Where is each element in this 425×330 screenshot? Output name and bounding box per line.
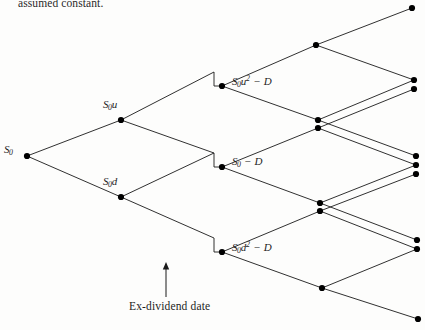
tree-node bbox=[319, 285, 325, 291]
tree-node-label: S0 − D bbox=[232, 155, 262, 169]
tree-edge bbox=[316, 8, 412, 45]
tree-node bbox=[415, 316, 421, 322]
tree-node-label: S0d bbox=[103, 175, 117, 189]
tree-node-label: S0 bbox=[4, 143, 13, 157]
tree-edge bbox=[27, 120, 121, 156]
tree-edge bbox=[320, 203, 417, 240]
tree-node bbox=[413, 153, 419, 159]
tree-node bbox=[219, 164, 225, 170]
arrow-head bbox=[163, 262, 169, 270]
tree-node bbox=[219, 249, 225, 255]
tree-node bbox=[414, 237, 420, 243]
tree-edge bbox=[121, 153, 214, 197]
tree-edge bbox=[316, 45, 414, 80]
tree-edge bbox=[121, 197, 214, 238]
binomial-tree-figure: assumed constant. S0S0uS0dS0u2 − DS0 − D… bbox=[0, 0, 425, 330]
dividend-drop-steps-group bbox=[214, 72, 222, 252]
tree-node bbox=[118, 117, 124, 123]
tree-node bbox=[118, 194, 124, 200]
tree-node bbox=[414, 246, 420, 252]
tree-edges-group bbox=[27, 8, 418, 319]
tree-edge bbox=[222, 252, 322, 288]
tree-node-label: S0u2 − D bbox=[232, 74, 272, 89]
tree-edge bbox=[318, 80, 414, 120]
tree-edge bbox=[222, 167, 320, 203]
tree-edge bbox=[121, 72, 214, 120]
tree-node-label: S0d2 − D bbox=[232, 240, 272, 255]
tree-node bbox=[411, 77, 417, 83]
tree-edge bbox=[320, 211, 417, 249]
tree-nodes-group bbox=[24, 5, 421, 322]
tree-node bbox=[317, 200, 323, 206]
tree-node bbox=[413, 171, 419, 177]
tree-edge bbox=[318, 120, 416, 156]
tree-node-label: S0u bbox=[103, 98, 117, 112]
tree-edge bbox=[318, 89, 414, 128]
ex-dividend-arrow bbox=[163, 262, 169, 297]
tree-node bbox=[413, 162, 419, 168]
tree-edge bbox=[322, 288, 418, 319]
tree-edge bbox=[318, 128, 416, 165]
tree-edge bbox=[322, 249, 417, 288]
tree-edge bbox=[222, 86, 318, 120]
tree-node bbox=[317, 208, 323, 214]
tree-node bbox=[313, 42, 319, 48]
tree-canvas bbox=[0, 0, 425, 330]
tree-node bbox=[409, 5, 415, 11]
tree-node bbox=[219, 83, 225, 89]
tree-node bbox=[24, 153, 30, 159]
tree-node bbox=[411, 86, 417, 92]
tree-edge bbox=[320, 165, 416, 203]
tree-node bbox=[315, 125, 321, 131]
tree-edge bbox=[121, 120, 214, 153]
tree-node bbox=[315, 117, 321, 123]
ex-dividend-date-caption: Ex-dividend date bbox=[129, 300, 210, 312]
tree-edge bbox=[320, 174, 416, 211]
